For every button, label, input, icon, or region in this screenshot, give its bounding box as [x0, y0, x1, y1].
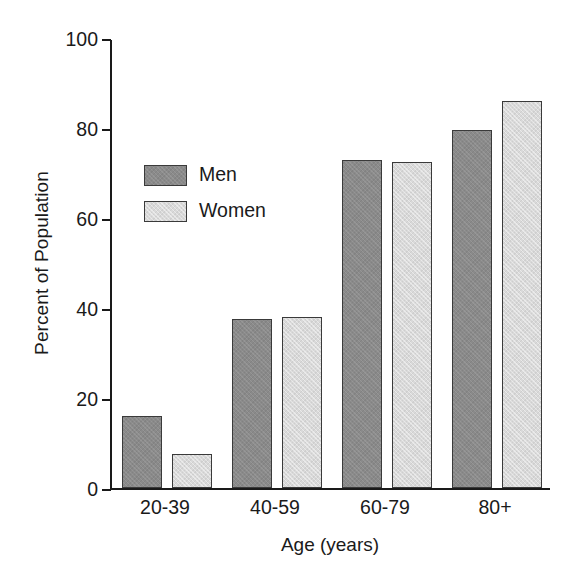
x-axis-tick-label: 80+ — [478, 498, 511, 518]
y-axis-tick-label: 40 — [52, 300, 98, 320]
legend-item-women: Women — [144, 196, 266, 226]
y-axis-title: Percent of Population — [31, 143, 53, 383]
bar-men-20-39 — [122, 416, 162, 488]
x-axis-tick-label: 20-39 — [140, 498, 190, 518]
x-axis-tick-label: 60-79 — [360, 498, 410, 518]
bar-women-20-39 — [172, 454, 212, 488]
x-axis-tick-label: 40-59 — [250, 498, 300, 518]
bar-men-40-59 — [232, 319, 272, 488]
legend-swatch-men — [144, 165, 187, 186]
bar-men-60-79 — [342, 160, 382, 489]
bar-women-60-79 — [392, 162, 432, 488]
legend: MenWomen — [144, 160, 266, 232]
y-axis-tick-label: 60 — [52, 210, 98, 230]
legend-label: Women — [199, 201, 266, 221]
x-axis-title: Age (years) — [110, 534, 550, 556]
bar-men-80+ — [452, 130, 492, 488]
y-axis-tick-labels: 020406080100 — [52, 0, 98, 576]
legend-item-men: Men — [144, 160, 266, 190]
x-axis-tick-labels: 20-3940-5960-7980+ — [110, 498, 550, 524]
legend-swatch-women — [144, 201, 187, 222]
bar-chart: Percent of Population 020406080100 MenWo… — [0, 0, 567, 576]
y-axis-tick-label: 100 — [52, 30, 98, 50]
y-axis-tick-label: 20 — [52, 390, 98, 410]
bar-women-80+ — [502, 101, 542, 488]
plot-area: MenWomen — [110, 40, 550, 490]
bar-group-container — [112, 40, 550, 488]
legend-label: Men — [199, 165, 237, 185]
y-axis-tick-label: 80 — [52, 120, 98, 140]
y-axis-tick-label: 0 — [52, 480, 98, 500]
bar-women-40-59 — [282, 317, 322, 488]
